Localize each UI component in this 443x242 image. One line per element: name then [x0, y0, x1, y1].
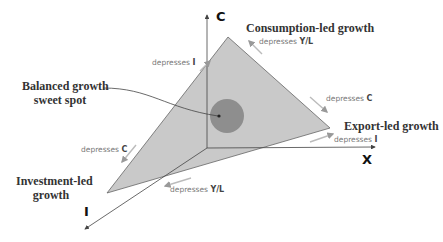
x-axis-label: X — [362, 152, 372, 167]
effect-left-lower: depresses C — [81, 145, 127, 154]
effect-left-upper: depresses I — [152, 58, 195, 67]
effect-top-right: depresses Y/L — [259, 37, 313, 46]
i-axis-label: I — [84, 204, 89, 219]
c-axis-label: C — [216, 9, 226, 24]
export-label: Export-led growth — [344, 119, 439, 133]
sweet-spot-circle — [210, 99, 244, 133]
effect-right-mid: depresses C — [326, 94, 372, 103]
effect-right-low: depresses I — [334, 135, 377, 144]
sweet-spot-label: Balanced growth sweet spot — [22, 79, 98, 107]
effect-bottom: depresses Y/L — [170, 185, 224, 194]
consumption-label: Consumption-led growth — [246, 21, 374, 35]
growth-diagram: C X I Consumption-led growth Export-led … — [0, 0, 443, 242]
investment-label: Investment-led growth — [16, 174, 86, 202]
